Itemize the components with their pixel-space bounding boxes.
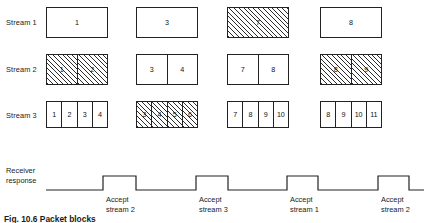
packet-cell-label: 1	[59, 66, 64, 73]
packet-cell: 6	[182, 102, 197, 127]
pulse-label-accept-stream-2-b: Accept stream 2	[381, 195, 410, 214]
packet-cell-label: 4	[157, 111, 162, 118]
packet-group: 1	[46, 7, 108, 38]
pulse-label-line-1: Accept	[199, 195, 228, 205]
figure-caption: Fig. 10.6 Packet blocks	[4, 214, 96, 223]
row-label-stream-2: Stream 2	[6, 65, 37, 74]
packet-cell: 9	[335, 102, 350, 127]
packet-cell-label: 7	[233, 111, 237, 118]
packet-cell: 8	[321, 55, 351, 84]
packet-cell-label: 8	[333, 66, 338, 73]
pulse-label-line-2: stream 3	[199, 205, 228, 215]
packet-cell: 4	[151, 102, 166, 127]
receiver-response-waveform	[0, 158, 429, 200]
packet-cell-label: 6	[187, 111, 192, 118]
packet-cell: 8	[321, 8, 381, 37]
packet-cell: 9	[351, 55, 382, 84]
pulse-label-accept-stream-1: Accept stream 1	[290, 195, 319, 214]
packet-cell-label: 9	[341, 111, 345, 118]
packet-cell: 2	[77, 55, 108, 84]
packet-cell-label: 3	[142, 111, 147, 118]
pulse-label-accept-stream-3: Accept stream 3	[199, 195, 228, 214]
packet-cell-label: 1	[52, 111, 56, 118]
packet-cell: 1	[47, 8, 107, 37]
packet-cell: 8	[242, 102, 257, 127]
packet-cell-label: 2	[67, 111, 71, 118]
packet-cell: 4	[167, 55, 198, 84]
packet-cell-label: 1	[75, 19, 79, 26]
packet-cell: 2	[61, 102, 76, 127]
packet-cell-label: 4	[98, 111, 102, 118]
packet-cell: 8	[321, 102, 335, 127]
packet-group: 7 8 9 10	[227, 101, 289, 128]
waveform-trace	[46, 176, 424, 190]
packet-cell: 9	[258, 102, 273, 127]
packet-cell-label: 10	[277, 111, 285, 118]
packet-cell: 10	[273, 102, 288, 127]
pulse-label-line-1: Accept	[290, 195, 319, 205]
packet-cell-label: 9	[364, 66, 369, 73]
packet-cell-label: 7	[256, 19, 261, 26]
packet-group-hatched: 8 9	[320, 54, 382, 85]
packet-cell: 3	[137, 8, 197, 37]
packet-cell: 5	[167, 102, 182, 127]
pulse-label-line-2: stream 1	[290, 205, 319, 215]
pulse-label-line-1: Accept	[381, 195, 410, 205]
packet-cell: 1	[47, 102, 61, 127]
packet-cell-label: 4	[180, 66, 184, 73]
packet-group: 8	[320, 7, 382, 38]
packet-cell: 3	[137, 55, 167, 84]
pulse-label-line-1: Accept	[106, 195, 135, 205]
packet-group: 1 2 3 4	[46, 101, 108, 128]
packet-cell-label: 7	[241, 66, 245, 73]
packet-cell: 7	[228, 102, 242, 127]
packet-cell: 7	[228, 55, 258, 84]
packet-cell: 4	[92, 102, 107, 127]
packet-cell-label: 8	[349, 19, 353, 26]
row-label-stream-3: Stream 3	[6, 111, 37, 120]
row-label-stream-1: Stream 1	[6, 18, 37, 27]
pulse-label-line-2: stream 2	[106, 205, 135, 215]
packet-cell: 1	[47, 55, 77, 84]
packet-cell-label: 3	[150, 66, 154, 73]
packet-cell-label: 10	[355, 111, 363, 118]
packet-stream-timing-figure: Stream 1 Stream 2 Stream 3 1 3 7 8 1 2 3	[0, 0, 429, 223]
packet-cell-label: 8	[271, 66, 275, 73]
packet-cell: 10	[351, 102, 366, 127]
packet-cell-label: 11	[370, 111, 377, 118]
packet-cell: 11	[366, 102, 381, 127]
packet-cell: 7	[228, 8, 288, 37]
pulse-label-line-2: stream 2	[381, 205, 410, 215]
packet-group-hatched: 1 2	[46, 54, 108, 85]
packet-cell-label: 5	[172, 111, 177, 118]
packet-cell-label: 8	[326, 111, 330, 118]
packet-group: 3	[136, 7, 198, 38]
packet-cell: 8	[258, 55, 289, 84]
packet-cell-label: 3	[165, 19, 169, 26]
packet-group: 3 4	[136, 54, 198, 85]
packet-cell-label: 9	[264, 111, 268, 118]
pulse-label-accept-stream-2-a: Accept stream 2	[106, 195, 135, 214]
packet-group-hatched: 3 4 5 6	[136, 101, 198, 128]
packet-cell: 3	[137, 102, 151, 127]
packet-cell: 3	[77, 102, 92, 127]
packet-cell-label: 8	[248, 111, 252, 118]
packet-group-hatched: 7	[227, 7, 289, 38]
packet-cell-label: 3	[83, 111, 87, 118]
packet-cell-label: 2	[90, 66, 95, 73]
packet-group: 7 8	[227, 54, 289, 85]
packet-group: 8 9 10 11	[320, 101, 382, 128]
